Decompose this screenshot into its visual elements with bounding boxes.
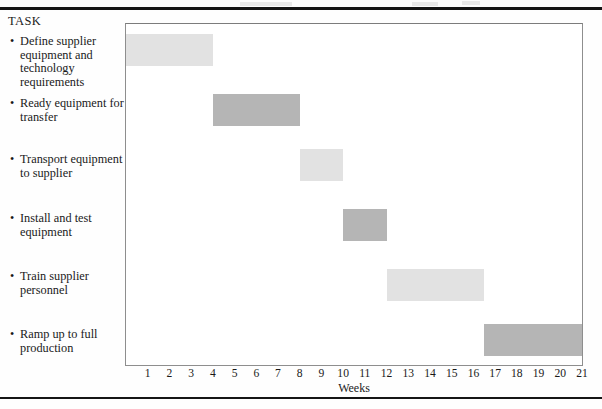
x-tick-label: 12	[375, 367, 399, 381]
x-tick-label: 5	[223, 367, 247, 381]
task-label: Define supplier equipment and technology…	[20, 35, 124, 89]
x-tick-label: 13	[396, 367, 420, 381]
x-tick-label: 20	[548, 367, 572, 381]
task-label: Ramp up to full production	[20, 328, 124, 355]
x-axis-title: Weeks	[125, 381, 583, 395]
task-label: Train supplier personnel	[20, 270, 124, 297]
bullet-icon: •	[10, 270, 20, 284]
top-divider-rule	[0, 7, 602, 10]
task-label: Transport equipment to supplier	[20, 153, 124, 180]
x-tick-label: 14	[418, 367, 442, 381]
task-label-column: TASK • Define supplier equipment and tec…	[0, 14, 124, 369]
x-tick-label: 16	[461, 367, 485, 381]
x-tick-label: 17	[483, 367, 507, 381]
scan-artifact	[462, 1, 480, 5]
gantt-chart-frame	[125, 23, 583, 366]
gantt-bar	[387, 269, 485, 301]
list-item: • Ready equipment for transfer	[10, 97, 124, 124]
task-column-heading: TASK	[8, 14, 41, 28]
gantt-bar	[343, 209, 386, 241]
x-tick-label: 21	[570, 367, 594, 381]
x-tick-label: 6	[244, 367, 268, 381]
x-tick-label: 11	[353, 367, 377, 381]
x-tick-label: 15	[440, 367, 464, 381]
bullet-icon: •	[10, 97, 20, 111]
gantt-bar	[484, 324, 582, 356]
task-label: Install and test equipment	[20, 212, 124, 239]
task-label: Ready equipment for transfer	[20, 97, 124, 124]
x-tick-label: 4	[201, 367, 225, 381]
bullet-icon: •	[10, 153, 20, 167]
list-item: • Ramp up to full production	[10, 328, 124, 355]
figure-page: TASK • Define supplier equipment and tec…	[0, 0, 602, 409]
gantt-bar	[126, 34, 213, 66]
bullet-icon: •	[10, 35, 20, 49]
bullet-icon: •	[10, 328, 20, 342]
x-tick-label: 8	[288, 367, 312, 381]
x-tick-label: 9	[309, 367, 333, 381]
x-tick-label: 10	[331, 367, 355, 381]
scan-artifact	[412, 2, 438, 6]
x-tick-label: 3	[179, 367, 203, 381]
x-tick-label: 7	[266, 367, 290, 381]
x-tick-label: 1	[136, 367, 160, 381]
gantt-bar	[300, 149, 343, 181]
x-tick-label: 18	[505, 367, 529, 381]
gantt-bar	[213, 94, 300, 126]
plot-area	[126, 24, 582, 365]
bullet-icon: •	[10, 212, 20, 226]
list-item: • Install and test equipment	[10, 212, 124, 239]
list-item: • Train supplier personnel	[10, 270, 124, 297]
list-item: • Define supplier equipment and technolo…	[10, 35, 124, 89]
bottom-divider-rule	[0, 397, 602, 399]
x-tick-label: 2	[157, 367, 181, 381]
list-item: • Transport equipment to supplier	[10, 153, 124, 180]
x-tick-label: 19	[527, 367, 551, 381]
scan-artifact	[240, 2, 292, 6]
